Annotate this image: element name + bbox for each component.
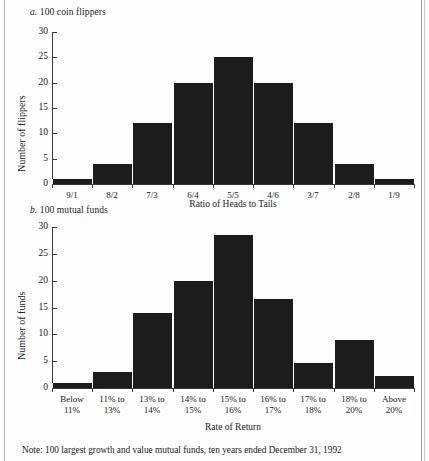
x-tick-label: 13% to14% (132, 394, 172, 415)
x-tick-label-line: Above (374, 394, 414, 405)
bar (213, 235, 254, 388)
bar (293, 123, 334, 184)
x-tick-label: Below11% (52, 394, 92, 415)
x-tick-label-line: 14% (132, 405, 172, 416)
x-tick-a-3 (173, 185, 174, 188)
y-axis-title-b: Number of funds (16, 292, 27, 360)
bar (52, 179, 93, 184)
x-tick-a-8 (374, 185, 375, 188)
x-tick-label: 15% to16% (213, 394, 253, 415)
y-tick-label-a-5: 5 (28, 154, 48, 164)
bar (334, 340, 375, 388)
y-tick-label-a-0: 0 (28, 179, 48, 189)
x-tick-a-4 (213, 185, 214, 188)
x-tick-label-line: 16% (213, 405, 253, 416)
x-tick-b-4 (213, 389, 214, 392)
x-tick-b-3 (173, 389, 174, 392)
y-tick-label-b-5: 5 (28, 356, 48, 366)
x-tick-label-line: 15% to (213, 394, 253, 405)
x-tick-a-1 (92, 185, 93, 188)
x-tick-label-line: 13% to (132, 394, 172, 405)
y-axis-top-cap-a (52, 32, 57, 33)
bar (173, 83, 214, 184)
x-tick-b-2 (132, 389, 133, 392)
bar (374, 179, 415, 184)
y-tick-label-a-30: 30 (28, 27, 48, 37)
x-tick-a-0 (52, 185, 53, 188)
bar (213, 57, 254, 184)
x-tick-a-5 (253, 185, 254, 188)
y-tick-a-25 (53, 57, 57, 58)
y-tick-b-15 (53, 308, 57, 309)
x-tick-b-5 (253, 389, 254, 392)
y-tick-b-20 (53, 281, 57, 282)
y-tick-label-a-10: 10 (28, 128, 48, 138)
x-tick-label-line: 15% (173, 405, 213, 416)
x-tick-label-line: 16% to (253, 394, 293, 405)
x-tick-a-end (414, 185, 415, 188)
bar (374, 376, 415, 388)
y-tick-label-b-25: 25 (28, 249, 48, 259)
figure-container: a. 100 coin flippers 0510152025309/18/27… (0, 0, 429, 461)
figure-note: Note: 100 largest growth and value mutua… (22, 445, 342, 455)
x-tick-label-line: Below (52, 394, 92, 405)
y-tick-label-a-25: 25 (28, 52, 48, 62)
bar (173, 281, 214, 388)
y-tick-label-b-20: 20 (28, 276, 48, 286)
y-tick-a-15 (53, 108, 57, 109)
y-tick-label-b-15: 15 (28, 303, 48, 313)
x-tick-label-line: 20% (334, 405, 374, 416)
x-tick-label: 18% to20% (334, 394, 374, 415)
bar (92, 372, 133, 388)
x-tick-label-line: 11% to (92, 394, 132, 405)
x-tick-label-line: 11% (52, 405, 92, 416)
x-tick-label-line: 13% (92, 405, 132, 416)
x-tick-b-0 (52, 389, 53, 392)
y-tick-a-5 (53, 159, 57, 160)
y-axis-top-cap-b (52, 227, 57, 228)
bar (92, 164, 133, 184)
bar (253, 299, 294, 388)
y-tick-label-a-15: 15 (28, 103, 48, 113)
x-tick-a-7 (334, 185, 335, 188)
x-tick-a-2 (132, 185, 133, 188)
y-tick-label-b-0: 0 (28, 383, 48, 393)
bar (253, 83, 294, 184)
bar (293, 363, 334, 388)
x-tick-b-1 (92, 389, 93, 392)
bar (132, 123, 173, 184)
plot-area-a: 0510152025309/18/27/36/45/54/63/72/81/9 (0, 0, 429, 212)
bar (52, 383, 93, 388)
bar (334, 164, 375, 184)
bar (132, 313, 173, 388)
x-tick-label: 11% to13% (92, 394, 132, 415)
panel-mutual-funds: b. 100 mutual funds 051015202530Below11%… (0, 200, 429, 461)
x-tick-label-line: 18% to (334, 394, 374, 405)
x-tick-label: 14% to15% (173, 394, 213, 415)
x-tick-b-7 (334, 389, 335, 392)
x-tick-a-6 (293, 185, 294, 188)
y-tick-label-b-10: 10 (28, 329, 48, 339)
y-tick-b-5 (53, 361, 57, 362)
x-axis-line-a (52, 184, 415, 185)
x-tick-b-6 (293, 389, 294, 392)
y-axis-title-a: Number of flippers (16, 95, 27, 172)
panel-coin-flippers: a. 100 coin flippers 0510152025309/18/27… (0, 0, 429, 212)
x-tick-label-line: 18% (293, 405, 333, 416)
x-tick-label: Above20% (374, 394, 414, 415)
y-tick-label-b-30: 30 (28, 222, 48, 232)
y-tick-b-25 (53, 254, 57, 255)
y-tick-b-10 (53, 334, 57, 335)
y-tick-label-a-20: 20 (28, 78, 48, 88)
x-tick-b-8 (374, 389, 375, 392)
x-axis-title-b: Rate of Return (52, 422, 414, 432)
x-tick-label-line: 17% (253, 405, 293, 416)
x-tick-label-line: 14% to (173, 394, 213, 405)
x-tick-label: 17% to18% (293, 394, 333, 415)
y-tick-a-10 (53, 133, 57, 134)
x-axis-line-b (52, 388, 415, 389)
y-tick-a-20 (53, 83, 57, 84)
x-tick-b-end (414, 389, 415, 392)
x-tick-label: 16% to17% (253, 394, 293, 415)
x-tick-label-line: 20% (374, 405, 414, 416)
